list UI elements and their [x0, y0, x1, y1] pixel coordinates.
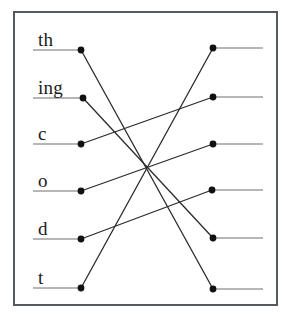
- right-node-R4[interactable]: [209, 187, 216, 194]
- left-node-group: [78, 47, 87, 292]
- edge-ing-to-R5[interactable]: [83, 98, 213, 238]
- left-node-o[interactable]: [78, 188, 85, 195]
- node-label-d: d: [38, 219, 48, 238]
- edge-group: [81, 48, 213, 289]
- figure-canvas: thingcodt: [0, 0, 292, 318]
- edge-c-to-R2[interactable]: [81, 97, 213, 144]
- node-label-o: o: [38, 171, 48, 190]
- node-label-th: th: [38, 30, 53, 49]
- left-node-t[interactable]: [78, 285, 85, 292]
- edge-d-to-R4[interactable]: [81, 190, 212, 239]
- left-node-th[interactable]: [78, 47, 85, 54]
- node-label-ing: ing: [38, 78, 63, 97]
- right-node-R6[interactable]: [210, 286, 217, 293]
- right-node-R3[interactable]: [210, 141, 217, 148]
- right-node-group: [209, 45, 217, 293]
- top-mark: [136, 0, 150, 9]
- right-node-R2[interactable]: [210, 94, 217, 101]
- left-node-d[interactable]: [78, 236, 85, 243]
- right-node-R1[interactable]: [210, 45, 217, 52]
- left-node-ing[interactable]: [80, 95, 87, 102]
- right-stub-group: [212, 48, 263, 289]
- left-node-c[interactable]: [78, 141, 85, 148]
- node-label-t: t: [38, 268, 43, 287]
- right-node-R5[interactable]: [210, 235, 217, 242]
- node-label-c: c: [38, 124, 47, 143]
